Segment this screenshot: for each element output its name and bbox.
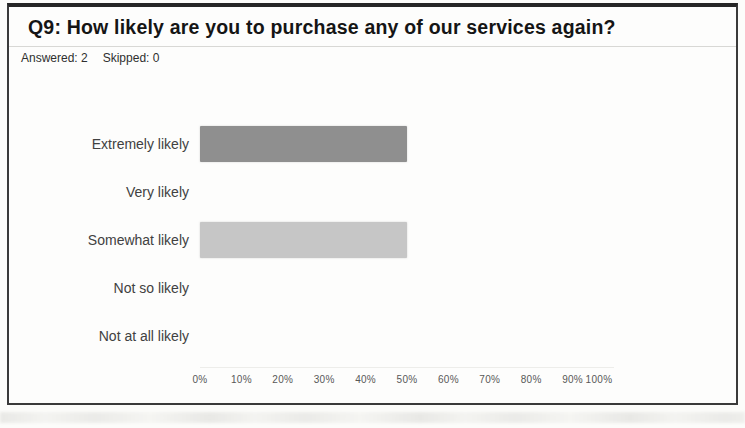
response-stats: Answered: 2 Skipped: 0 <box>21 51 736 65</box>
category-label: Very likely <box>9 184 189 200</box>
chart-row: Extremely likely <box>9 120 736 168</box>
horizontal-bar-chart: Extremely likelyVery likelySomewhat like… <box>9 120 736 360</box>
x-axis-tick-label: 70% <box>479 372 500 387</box>
answered-count: Answered: 2 <box>21 51 88 65</box>
x-axis-tick-label: 90% <box>562 372 583 387</box>
category-label: Somewhat likely <box>9 232 189 248</box>
x-axis-tick-label: 30% <box>314 372 335 387</box>
x-axis-tick-label: 60% <box>438 372 459 387</box>
bar-track <box>200 318 736 354</box>
skipped-count: Skipped: 0 <box>103 51 160 65</box>
bar-track <box>200 126 736 162</box>
question-result-card: Q9: How likely are you to purchase any o… <box>7 3 738 405</box>
bar-track <box>200 174 736 210</box>
survey-report-page: Q9: How likely are you to purchase any o… <box>0 0 745 428</box>
chart-row: Very likely <box>9 168 736 216</box>
x-axis: 0%10%20%30%40%50%60%70%80%90%100% <box>9 372 736 387</box>
chart-row: Somewhat likely <box>9 216 736 264</box>
bar-somewhat-likely <box>200 222 407 258</box>
category-label: Not at all likely <box>9 328 189 344</box>
bar-track <box>200 222 736 258</box>
x-axis-tick-label: 40% <box>355 372 376 387</box>
title-divider <box>9 46 736 47</box>
scan-artifact-band <box>0 412 745 423</box>
x-axis-tick-label: 20% <box>272 372 293 387</box>
category-label: Not so likely <box>9 280 189 296</box>
chart-row: Not so likely <box>9 264 736 312</box>
chart-rows: Extremely likelyVery likelySomewhat like… <box>9 120 736 360</box>
bar-track <box>200 270 736 306</box>
x-axis-tick-label: 50% <box>397 372 418 387</box>
category-label: Extremely likely <box>9 136 189 152</box>
x-axis-tick-label: 10% <box>231 372 252 387</box>
bar-extremely-likely <box>200 126 407 162</box>
question-title: Q9: How likely are you to purchase any o… <box>28 15 722 39</box>
chart-row: Not at all likely <box>9 312 736 360</box>
x-axis-tick-label: 0% <box>192 372 207 387</box>
x-axis-tick-label: 80% <box>521 372 542 387</box>
x-axis-tick-label: 100% <box>586 372 613 387</box>
x-axis-line <box>200 367 614 368</box>
